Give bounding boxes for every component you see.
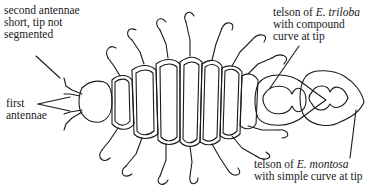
telson-montosa-outline — [300, 71, 364, 126]
label-line: short, tip not — [4, 16, 80, 28]
leader-second-antennae — [36, 56, 60, 78]
label-line: first — [6, 97, 47, 109]
species-name: E. montosa — [297, 158, 349, 170]
label-line: with simple curve at tip — [254, 170, 363, 182]
leader-telson-triloba — [270, 46, 299, 88]
label-line: antennae — [6, 109, 47, 121]
label-first-antennae: first antennae — [6, 97, 47, 121]
label-telson-triloba: telson of E. triloba with compound curve… — [273, 6, 360, 42]
head — [79, 81, 112, 122]
leader-telson-montosa — [350, 110, 356, 158]
species-name: E. triloba — [316, 6, 360, 18]
label-telson-montosa: telson of E. montosa with simple curve a… — [254, 158, 363, 182]
label-line: second antennae — [4, 4, 80, 16]
legs-upper — [107, 12, 287, 76]
label-line: telson of E. montosa — [254, 158, 363, 170]
label-line: with compound — [273, 18, 360, 30]
label-line: telson of E. triloba — [273, 6, 360, 18]
label-line: curve at tip — [273, 30, 360, 42]
label-line: segmented — [4, 28, 80, 40]
label-second-antennae: second antennae short, tip not segmented — [4, 4, 80, 40]
telson-body — [255, 75, 326, 125]
